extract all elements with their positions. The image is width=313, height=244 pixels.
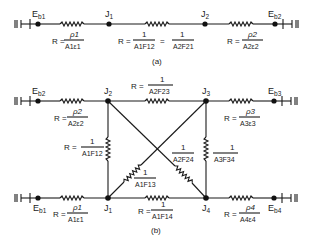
battery-icon	[275, 19, 298, 29]
node-eb1	[35, 21, 40, 26]
svg-text:ρ1: ρ1	[69, 30, 79, 39]
svg-text:R =: R =	[118, 37, 131, 46]
svg-text:R =: R =	[131, 82, 144, 91]
svg-text:R =: R =	[224, 210, 237, 219]
svg-text:R =: R =	[54, 114, 67, 123]
diagram-a: Eb1 J1 J2 Eb2 R = ρ1 A1ε1 R = 1 A1F12 = …	[15, 9, 298, 66]
svg-text:1: 1	[160, 75, 165, 84]
svg-text:A3F34: A3F34	[214, 156, 235, 163]
resistance-r12: R = 1 A1F12	[64, 137, 104, 157]
label-eb4: Eb4	[268, 203, 282, 214]
resistance-r24: 1 A2F24	[172, 143, 194, 163]
caption-b: (b)	[151, 226, 161, 235]
svg-text:R =: R =	[138, 207, 151, 216]
svg-text:A1F12: A1F12	[134, 43, 155, 50]
label-j2: J2	[104, 86, 113, 97]
label-eb2: Eb2	[268, 9, 282, 20]
svg-text:ρ1: ρ1	[72, 203, 82, 212]
label-j4: J4	[202, 203, 211, 214]
label-j1: J1	[105, 9, 114, 20]
label-eb3: Eb3	[268, 86, 282, 97]
diagram-b: Eb2 J2 J3 Eb3 Eb1 J1 J4 Eb4 R = ρ2 A2ε2 …	[15, 75, 297, 235]
battery-icon	[274, 96, 297, 106]
battery-icon	[15, 19, 38, 29]
resistor-icon	[60, 196, 84, 200]
svg-text:1: 1	[181, 143, 186, 152]
resistance-r1: R = ρ1 A1ε1	[52, 30, 84, 50]
resistor-icon	[204, 137, 208, 161]
resistor-icon	[106, 137, 110, 161]
svg-text:ρ2: ρ2	[72, 107, 83, 116]
battery-icon	[15, 193, 38, 203]
label-j1: J1	[104, 203, 113, 214]
node-eb2	[35, 98, 40, 103]
resistor-icon	[229, 99, 253, 103]
node-j1	[105, 195, 111, 201]
label-j3: J3	[202, 86, 211, 97]
resistor-icon	[60, 22, 84, 26]
svg-text:R =: R =	[224, 114, 237, 123]
resistor-icon	[145, 99, 169, 103]
svg-text:1: 1	[143, 168, 148, 177]
node-j3	[203, 98, 209, 104]
svg-text:R =: R =	[227, 37, 240, 46]
svg-text:A2ε2: A2ε2	[68, 120, 84, 127]
svg-text:1: 1	[142, 30, 147, 39]
svg-text:A2F21: A2F21	[173, 43, 194, 50]
svg-text:1: 1	[90, 137, 95, 146]
label-eb2: Eb2	[32, 86, 46, 97]
svg-text:A1ε1: A1ε1	[65, 43, 81, 50]
resistor-icon	[229, 22, 253, 26]
svg-text:A2F24: A2F24	[173, 156, 194, 163]
resistance-r2: R = ρ2 A2ε2	[54, 107, 88, 127]
resistance-r23: R = 1 A2F23	[131, 75, 173, 95]
svg-text:1: 1	[180, 30, 185, 39]
resistance-r3: R = ρ3 A3ε3	[224, 107, 260, 127]
resistance-r34: 1 A3F34	[213, 143, 238, 163]
node-j4	[203, 195, 209, 201]
node-eb4	[271, 195, 276, 200]
resistance-r12: R = 1 A1F12 = 1 A2F21	[118, 30, 194, 50]
node-j1	[106, 21, 111, 26]
label-j2: J2	[201, 9, 210, 20]
svg-text:A4ε4: A4ε4	[240, 216, 256, 223]
node-eb3	[271, 98, 276, 103]
label-eb1: Eb1	[33, 203, 47, 214]
svg-text:=: =	[160, 37, 165, 46]
svg-text:A1ε1: A1ε1	[68, 216, 84, 223]
node-eb1	[35, 195, 40, 200]
svg-text:A2ε2: A2ε2	[243, 43, 259, 50]
resistance-r1: R = ρ1 A1ε1	[53, 203, 88, 223]
resistance-r2: R = ρ2 A2ε2	[227, 30, 263, 50]
svg-text:R =: R =	[64, 143, 77, 152]
svg-text:1: 1	[230, 143, 235, 152]
node-eb2	[272, 21, 277, 26]
svg-text:ρ2: ρ2	[247, 30, 258, 39]
label-eb1: Eb1	[32, 9, 46, 20]
resistance-r14: R = 1 A1F14	[138, 200, 173, 220]
resistance-r4: R = ρ4 A4ε4	[224, 203, 260, 223]
resistance-r13: 1 A1F13	[134, 168, 156, 188]
svg-text:A1F14: A1F14	[152, 213, 173, 220]
svg-text:A1F13: A1F13	[135, 181, 156, 188]
svg-text:R =: R =	[52, 37, 65, 46]
resistor-icon	[145, 22, 169, 26]
svg-text:1: 1	[161, 200, 166, 209]
svg-text:ρ4: ρ4	[245, 203, 256, 212]
svg-text:ρ3: ρ3	[245, 107, 256, 116]
node-j2	[202, 21, 207, 26]
resistor-icon	[229, 196, 253, 200]
battery-icon	[274, 193, 297, 203]
caption-a: (a)	[152, 57, 162, 66]
svg-text:A3ε3: A3ε3	[240, 120, 256, 127]
battery-icon	[15, 96, 38, 106]
node-j2	[105, 98, 111, 104]
svg-text:R =: R =	[53, 210, 66, 219]
resistor-icon	[60, 99, 84, 103]
svg-text:A2F23: A2F23	[149, 88, 170, 95]
svg-text:A1F12: A1F12	[82, 150, 103, 157]
